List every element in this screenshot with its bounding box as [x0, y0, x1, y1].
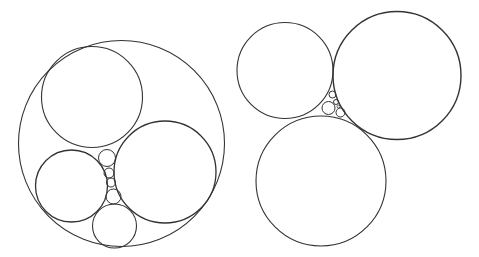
circle-bottom-left — [36, 150, 108, 222]
open-triple-packing-figure — [237, 12, 461, 247]
circle-gap-mid — [334, 100, 339, 105]
circle-bottom — [256, 116, 386, 246]
circle-outer — [19, 41, 225, 247]
circle-right — [114, 121, 216, 223]
circle-gap-tiny — [337, 105, 340, 108]
circle-chain-1 — [99, 150, 116, 167]
circle-chain-4 — [106, 189, 121, 204]
enclosed-packing-figure — [19, 41, 225, 249]
circle-top-left — [237, 23, 333, 119]
circle-top-left — [42, 47, 143, 148]
circle-gap-lower-right — [336, 108, 345, 117]
circle-bottom — [93, 204, 137, 248]
circle-gap-large — [322, 102, 335, 115]
circle-top-right — [333, 12, 461, 140]
diagram-canvas — [0, 0, 479, 257]
circle-gap-top — [329, 91, 336, 98]
circle-packing-diagram — [0, 0, 479, 257]
